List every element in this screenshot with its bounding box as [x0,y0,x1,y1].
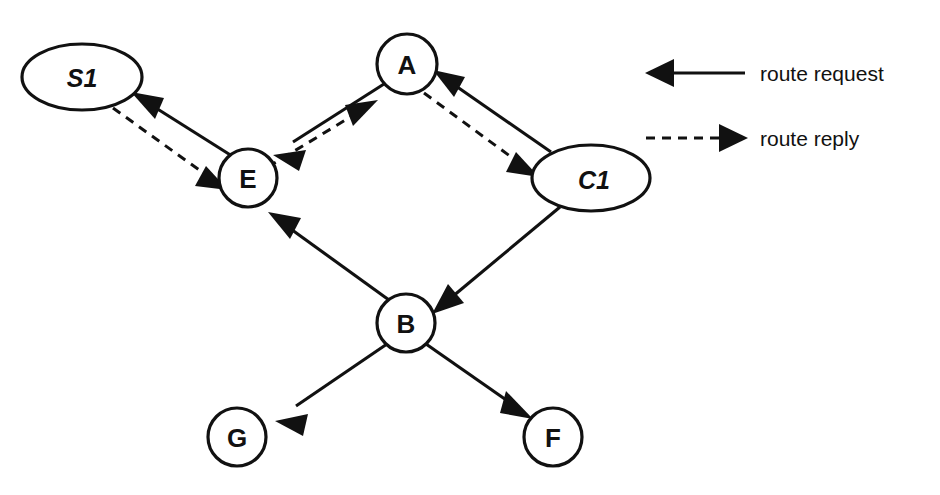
node-f-label: F [545,423,561,453]
node-g-label: G [227,423,247,453]
arrowhead-solid [275,414,308,436]
node-s1[interactable]: S1 [22,44,142,110]
edge-b-to-g-route-request [275,344,387,436]
node-g[interactable]: G [208,408,266,466]
legend-item-route-reply: route reply [646,124,860,152]
edge-s1-to-e-route-reply [113,108,228,190]
node-b[interactable]: B [377,294,435,352]
node-a-label: A [398,50,417,80]
edge-b-to-e-route-request [268,212,389,300]
arrowhead-solid [432,284,464,314]
routing-diagram: S1 A E C1 B G F [0,0,940,495]
arrowhead-solid [273,150,306,171]
node-f[interactable]: F [524,408,582,466]
node-s1-label: S1 [67,64,98,92]
edge-e-to-a-route-reply [268,100,378,167]
arrowhead-solid [500,391,533,419]
arrowhead-solid-left [645,59,674,87]
edge-e-to-s1-route-request [131,92,232,156]
node-e-label: E [239,164,256,194]
edge-b-to-f-route-request [426,344,533,419]
arrowhead-dashed-right [719,124,748,152]
legend: route request route reply [645,59,884,152]
node-e[interactable]: E [219,149,277,207]
legend-item-route-request: route request [645,59,884,87]
node-b-label: B [397,309,416,339]
node-c1[interactable]: C1 [532,145,650,211]
arrowhead-solid [131,92,164,119]
legend-label-route-reply: route reply [760,127,860,150]
diagram-canvas: S1 A E C1 B G F [0,0,940,495]
edge-a-to-e-route-request [273,84,384,171]
arrowhead-solid [268,212,301,239]
arrowhead-solid [433,70,465,97]
node-c1-label: C1 [578,166,610,194]
node-a[interactable]: A [377,34,437,94]
edge-c1-to-b-route-request [432,207,560,314]
legend-label-route-request: route request [760,62,884,85]
